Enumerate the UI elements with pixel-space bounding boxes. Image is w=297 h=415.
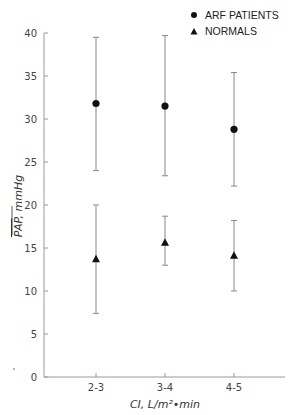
data-point [230, 220, 238, 291]
error-bars [92, 36, 238, 314]
data-point [92, 205, 100, 313]
x-axis-label: CI, L/m²•min [130, 398, 200, 411]
x-tick-label: 4-5 [226, 382, 242, 393]
y-tick-label: 20 [24, 200, 37, 211]
axis-labels: PAP, mmHgCI, L/m²•min [12, 175, 200, 411]
y-tick-label: 30 [24, 114, 37, 125]
y-tick-label: 40 [24, 28, 37, 39]
x-tick-label: 3-4 [157, 382, 173, 393]
y-tick-label: 15 [24, 243, 37, 254]
circle-marker-icon [92, 100, 99, 107]
y-tick-label: 25 [24, 157, 37, 168]
triangle-marker-icon [92, 255, 100, 263]
legend: ARF PATIENTSNORMALS [191, 9, 279, 37]
triangle-marker-icon [161, 238, 169, 246]
legend-triangle-icon [191, 28, 198, 35]
data-point [92, 37, 99, 170]
stray-dot [13, 368, 15, 370]
data-point [161, 216, 169, 265]
triangle-marker-icon [230, 251, 238, 258]
chart: 05101520253035402-33-44-5 ARF PATIENTSNO… [0, 0, 297, 415]
x-tick-label: 2-3 [88, 382, 104, 393]
y-tick-label: 35 [24, 71, 37, 82]
y-tick-label: 0 [31, 372, 37, 383]
y-tick-label: 10 [24, 286, 37, 297]
data-point [230, 73, 237, 187]
legend-circle-icon [191, 12, 197, 18]
y-tick-label: 5 [31, 329, 37, 340]
circle-marker-icon [161, 103, 168, 110]
circle-marker-icon [230, 126, 237, 133]
data-point [161, 36, 168, 176]
y-axis-label: PAP, mmHg [12, 175, 25, 237]
legend-label-arf: ARF PATIENTS [205, 9, 279, 21]
legend-label-normals: NORMALS [205, 25, 257, 37]
axes: 05101520253035402-33-44-5 [24, 28, 285, 394]
